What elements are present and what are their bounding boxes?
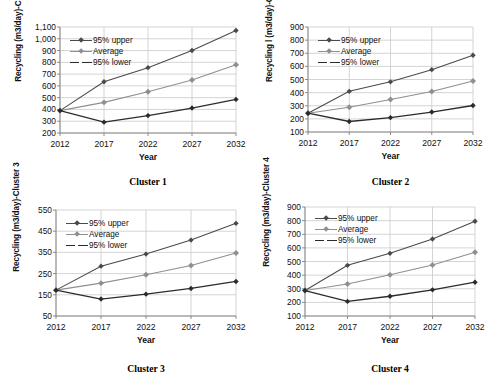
y-tick-label: 500 [42,93,56,103]
x-axis-title: Year [137,335,155,345]
data-point-marker [145,65,150,70]
data-point-marker [388,96,394,102]
data-point-marker [53,287,58,292]
legend-marker-icon [318,58,340,67]
y-tick-label: 400 [290,88,304,98]
figure-grid: Recycling (m3/day)-Cluster 1200300400500… [0,0,502,388]
chart-panel-cluster-2: Recycling l (m3/day)-Cluster 21002003004… [251,0,502,194]
legend-item: 95% lower [66,240,129,251]
data-point-marker [470,78,476,84]
x-tick-label: 2022 [136,322,155,332]
y-tick-label: 1,100 [35,22,56,32]
x-tick-label: 2012 [298,138,317,148]
y-tick-label: 1,000 [35,34,56,44]
y-tick-label: 300 [290,101,304,111]
chart-panel-cluster-4: Recycling (m3/day)-Cluster 4100200300400… [251,194,502,388]
legend-label: Average [93,47,123,56]
data-point-marker [387,294,392,299]
data-point-marker [430,236,435,241]
data-point-marker [188,263,194,269]
data-point-marker [233,279,238,284]
y-tick-label: 600 [42,81,56,91]
y-tick-label: 700 [42,69,56,79]
legend-marker-icon [66,230,88,239]
y-tick-label: 150 [38,290,52,300]
x-tick-label: 2032 [463,138,482,148]
x-tick-label: 2012 [295,322,314,332]
chart-panel-cluster-1: Recycling (m3/day)-Cluster 1200300400500… [0,0,251,194]
data-point-marker [143,291,148,296]
x-axis-title: Year [381,335,399,345]
legend-item: 95% upper [66,218,129,229]
y-tick-label: 700 [287,229,301,239]
data-point-marker [305,111,310,116]
legend-label: 95% lower [341,58,379,67]
y-tick-label: 50 [43,311,52,321]
data-point-marker [345,263,350,268]
legend-label: 95% upper [341,36,381,45]
legend-marker-icon [318,47,340,56]
legend-item: 95% lower [318,57,381,68]
y-tick-label: 300 [42,116,56,126]
legend-item: Average [70,46,133,57]
y-tick-label: 200 [290,114,304,124]
x-tick-label: 2012 [50,139,69,149]
x-tick-label: 2032 [226,139,245,149]
x-tick-label: 2027 [423,322,442,332]
data-point-marker [346,104,352,110]
legend-label: 95% lower [338,236,376,245]
data-point-marker [189,105,194,110]
x-tick-label: 2027 [181,322,200,332]
data-point-marker [145,113,150,118]
legend: 95% upperAverage95% lower [318,35,381,68]
data-point-marker [98,296,103,301]
legend-label: Average [338,225,368,234]
y-tick-label: 200 [42,128,56,138]
data-point-marker [101,79,106,84]
data-point-marker [143,272,149,278]
legend: 95% upperAverage95% lower [315,213,378,246]
legend: 95% upperAverage95% lower [66,218,129,251]
x-tick-label: 2032 [465,322,484,332]
x-tick-label: 2017 [340,138,359,148]
data-point-marker [98,263,103,268]
plot-area [251,0,502,194]
y-tick-label: 900 [290,22,304,32]
legend-marker-icon [315,214,337,223]
data-point-marker [472,249,478,255]
data-point-marker [472,280,477,285]
data-point-marker [188,286,193,291]
data-point-marker [345,299,350,304]
legend-marker-icon [315,225,337,234]
x-tick-label: 2022 [138,139,157,149]
legend-marker-icon [70,36,92,45]
data-point-marker [470,103,475,108]
data-point-marker [233,250,239,256]
data-point-marker [345,281,351,287]
legend-marker-icon [66,219,88,228]
x-tick-label: 2022 [381,138,400,148]
legend-item: Average [66,229,129,240]
data-point-marker [347,89,352,94]
y-tick-label: 400 [287,270,301,280]
data-point-marker [57,108,62,113]
y-tick-label: 300 [287,284,301,294]
data-point-marker [429,67,434,72]
data-point-marker [430,262,436,268]
legend-label: 95% upper [93,36,133,45]
y-tick-label: 550 [38,205,52,215]
data-point-marker [233,28,238,33]
y-tick-label: 250 [38,269,52,279]
legend-label: 95% lower [89,241,127,250]
x-tick-label: 2027 [182,139,201,149]
data-point-marker [145,89,151,95]
x-tick-label: 2027 [422,138,441,148]
legend-item: 95% upper [70,35,133,46]
x-tick-label: 2032 [226,322,245,332]
y-tick-label: 100 [287,311,301,321]
data-point-marker [472,219,477,224]
panel-caption: Cluster 4 [371,363,408,374]
data-point-marker [388,115,393,120]
y-tick-label: 600 [290,61,304,71]
y-tick-label: 100 [290,127,304,137]
